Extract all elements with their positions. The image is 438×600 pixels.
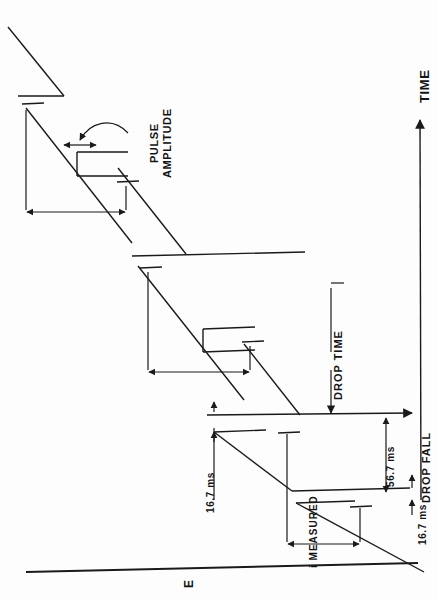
waveform-baseline-arrow	[207, 413, 412, 415]
label-drop-time: DROP TIME	[332, 330, 345, 400]
measurement-56-7-ms: 56.7 ms	[385, 446, 397, 487]
dim-tick-measured-2	[350, 506, 372, 507]
label-e-axis: E	[183, 579, 197, 588]
waveform-flat-5	[214, 430, 266, 432]
dim-tick-mid-1	[140, 267, 162, 268]
label-measured: i MEASURED	[308, 495, 320, 568]
waveform-ramp-5	[244, 344, 300, 415]
label-pulse-amplitude-line2: AMPLITUDE	[161, 108, 174, 178]
leader-pulse-amplitude	[80, 123, 128, 140]
waveform-flat-7	[296, 501, 355, 503]
measurement-16-7-ms-lower: 16.7 ms	[417, 504, 429, 545]
label-pulse-amplitude: PULSE AMPLITUDE	[148, 108, 173, 178]
measurement-16-7-ms-upper: 16.7 ms	[205, 472, 217, 513]
waveform-ramp-4	[138, 266, 244, 400]
waveform-drawing	[0, 0, 438, 600]
dim-tick-measured-1	[278, 432, 300, 433]
waveform-flat-6	[292, 488, 410, 491]
dim-tick-top-1	[22, 103, 44, 104]
label-pulse-amplitude-line1: PULSE	[148, 108, 161, 178]
waveform-flat-4b	[203, 350, 255, 352]
diagram-canvas: PULSE AMPLITUDE TIME DROP TIME DROP FALL…	[0, 0, 438, 600]
waveform-flat-3	[132, 252, 305, 256]
waveform-ramp-6	[214, 432, 292, 491]
label-drop-fall: DROP FALL	[420, 432, 433, 503]
waveform-ramp-1	[8, 27, 64, 96]
axis-e-line	[26, 563, 418, 572]
dim-tick-top-2	[117, 181, 139, 182]
dim-tick-mid-2	[242, 341, 264, 342]
label-time-axis: TIME	[418, 70, 433, 103]
waveform-flat-4	[203, 327, 255, 329]
